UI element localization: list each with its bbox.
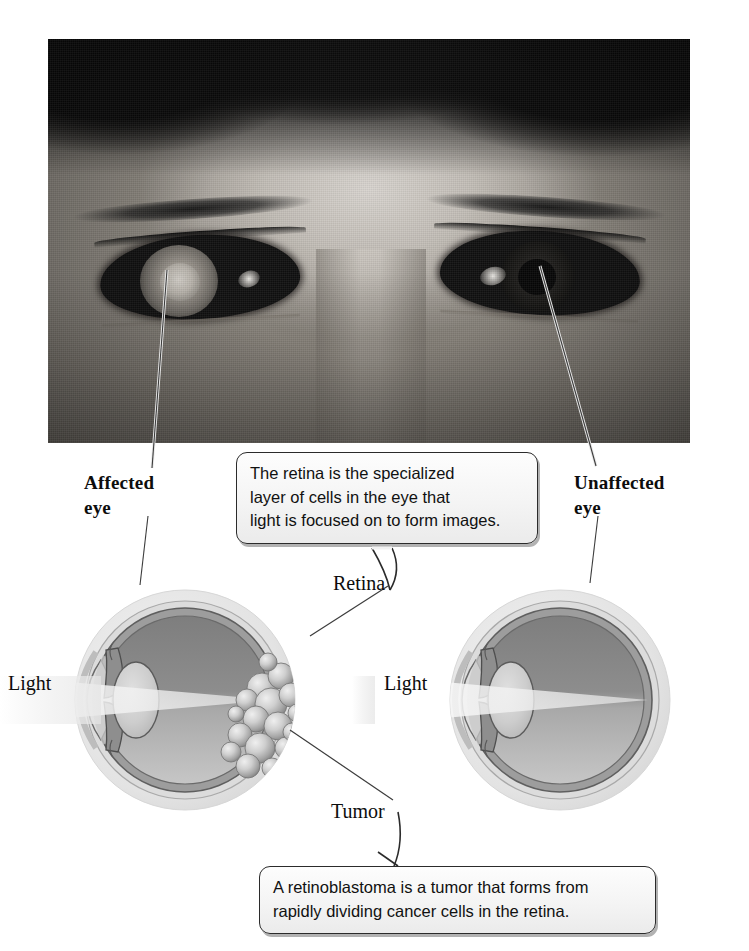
- callout-tail-retina: [390, 548, 397, 590]
- sclera-ring: [461, 601, 659, 799]
- iris-upper: [479, 648, 498, 698]
- label-light-unaffected: Light: [384, 672, 427, 694]
- label-unaffected-eye: Unaffected eye: [574, 470, 724, 520]
- iris-lower: [479, 702, 498, 752]
- affected-eye-diagram: [0, 590, 306, 810]
- vitreous-body: [476, 616, 644, 784]
- label-light-affected: Light: [8, 672, 51, 694]
- sclera-outer: [75, 590, 295, 810]
- retina-layer: [468, 608, 652, 792]
- callout-tumor: A retinoblastoma is a tumor that forms f…: [259, 866, 656, 934]
- unaffected-eye-diagram: [352, 590, 670, 810]
- tumor-mass: [221, 653, 306, 778]
- lens: [488, 662, 534, 738]
- anterior-chamber: [467, 655, 503, 745]
- callout-retina-text: The retina is the specialized layer of c…: [250, 462, 524, 533]
- lens: [113, 662, 159, 738]
- label-retina: Retina: [333, 572, 385, 594]
- iris-upper: [104, 648, 123, 698]
- light-beam-entry: [352, 676, 375, 724]
- callout-retina: The retina is the specialized layer of c…: [236, 452, 538, 544]
- vitreous-body: [101, 616, 269, 784]
- anterior-chamber: [92, 655, 128, 745]
- label-tumor: Tumor: [331, 800, 385, 822]
- sclera-outer: [450, 590, 670, 810]
- cornea: [87, 660, 112, 740]
- callout-tail-tumor: [394, 812, 400, 866]
- leader-line-affected-lower: [140, 516, 148, 585]
- patient-photograph: [48, 39, 690, 443]
- callout-tumor-text: A retinoblastoma is a tumor that forms f…: [273, 876, 642, 923]
- figure-root: Affected eye Unaffected eye Retina Light…: [0, 0, 749, 951]
- leader-line-unaffected-lower: [590, 516, 598, 583]
- cornea-outer: [455, 652, 471, 748]
- cornea: [462, 660, 487, 740]
- photo-grain: [48, 39, 690, 443]
- leader-line-tumor: [290, 730, 393, 800]
- cornea-outer: [80, 652, 96, 748]
- retina-layer: [93, 608, 277, 792]
- label-affected-eye: Affected eye: [84, 470, 204, 520]
- iris-lower: [104, 702, 123, 752]
- sclera-ring: [86, 601, 284, 799]
